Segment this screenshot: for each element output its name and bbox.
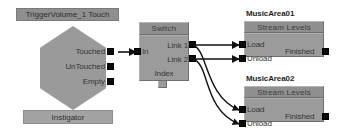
event-output-pin-touched[interactable] — [107, 48, 114, 55]
music-area-02-output-label-finished: Finished — [285, 112, 314, 121]
switch-output-pin-link-2[interactable] — [189, 55, 196, 62]
music-area-01-title: Stream Levels — [244, 21, 324, 33]
music-area-02-input-label-unload: Unload — [247, 119, 272, 128]
event-variable-instigator[interactable]: Instigator — [23, 110, 113, 124]
event-output-label-touched: Touched — [55, 47, 105, 56]
music-area-02-caption: MusicArea02 — [246, 74, 294, 83]
music-area-01-input-pin-load[interactable] — [239, 41, 246, 48]
music-area-02-input-pin-unload[interactable] — [239, 120, 246, 127]
music-area-02-input-pin-load[interactable] — [239, 106, 246, 113]
switch-output-label-link-2: Link 2 — [148, 55, 188, 64]
music-area-01-output-label-finished: Finished — [285, 47, 314, 56]
event-output-label-untouched: UnTouched — [47, 62, 105, 71]
event-output-label-empty: Empty — [62, 77, 105, 86]
music-area-01-caption: MusicArea01 — [246, 9, 294, 18]
kismet-graph-canvas[interactable]: TriggerVolume_1 Touch Touched UnTouched … — [0, 0, 341, 139]
wire-link1-to-ma02-load — [193, 45, 239, 110]
wire-link2-to-ma02-unload — [193, 59, 239, 124]
switch-variable-label-index: Index — [139, 69, 189, 78]
music-area-01-output-pin-finished[interactable] — [322, 48, 329, 55]
event-node-title: TriggerVolume_1 Touch — [16, 8, 119, 21]
music-area-01-input-pin-unload[interactable] — [239, 55, 246, 62]
music-area-02-input-label-load: Load — [247, 105, 264, 114]
switch-output-pin-link-1[interactable] — [189, 41, 196, 48]
switch-variable-stub — [158, 81, 167, 88]
event-output-pin-empty[interactable] — [107, 78, 114, 85]
music-area-01-input-label-unload: Unload — [247, 54, 272, 63]
switch-node-title: Switch — [139, 22, 189, 35]
switch-input-pin-in[interactable] — [134, 48, 141, 55]
event-output-pin-untouched[interactable] — [107, 63, 114, 70]
music-area-01-input-label-load: Load — [247, 40, 264, 49]
switch-output-label-link-1: Link 1 — [148, 41, 188, 50]
music-area-02-output-pin-finished[interactable] — [322, 113, 329, 120]
music-area-02-title: Stream Levels — [244, 86, 324, 98]
